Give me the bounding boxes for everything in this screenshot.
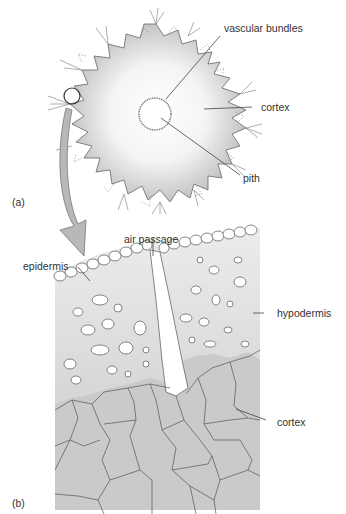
label-cortex-b: cortex bbox=[277, 416, 306, 428]
label-vascular-bundles: vascular bundles bbox=[224, 22, 303, 34]
stem-cross-section bbox=[48, 8, 262, 214]
label-hypodermis: hypodermis bbox=[277, 307, 331, 319]
panel-label-a: (a) bbox=[12, 196, 25, 208]
panel-label-b: (b) bbox=[12, 497, 25, 509]
magnify-arrow bbox=[60, 108, 86, 256]
pith-ring bbox=[139, 98, 171, 130]
label-pith: pith bbox=[243, 172, 260, 184]
label-air-passage: air passage bbox=[124, 233, 178, 245]
magnify-circle bbox=[64, 88, 80, 104]
label-epidermis: epidermis bbox=[23, 260, 69, 272]
detail-section bbox=[54, 225, 266, 514]
label-cortex-a: cortex bbox=[261, 101, 290, 113]
stem-diagram bbox=[0, 0, 346, 514]
